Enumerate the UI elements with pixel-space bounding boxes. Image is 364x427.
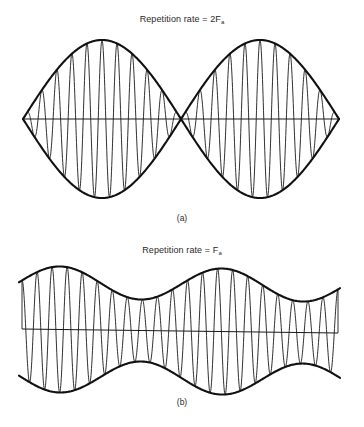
panel-b-caption: (b) — [0, 397, 364, 407]
panel-b-lower-envelope — [19, 362, 340, 395]
panel-b-upper-envelope — [19, 266, 340, 301]
panel-b-waveform — [0, 0, 364, 427]
panel-b-time-axis — [22, 329, 338, 333]
